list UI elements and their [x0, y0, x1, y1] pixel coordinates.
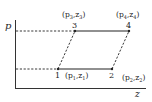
point-3-label: 3: [72, 21, 77, 30]
p-z-diagram: p z 3 4 1 2 (p3,z3) (p4,z4) (p1,z1) (p2,…: [0, 0, 152, 102]
point-2-coord-label: (p2,z2): [122, 73, 145, 83]
x-axis-label: z: [134, 89, 140, 99]
point-4-label: 4: [126, 21, 131, 30]
point-1-coord-label: (p1,z1): [65, 71, 88, 81]
point-1-label: 1: [55, 71, 60, 80]
point-2-label: 2: [109, 71, 114, 80]
point-3-marker: [74, 30, 76, 32]
y-axis-label: p: [5, 20, 12, 31]
dashed-segment-2-4: [112, 31, 129, 69]
point-2-marker: [111, 68, 113, 70]
point-4-marker: [128, 30, 130, 32]
dashed-segment-1-3: [58, 31, 75, 69]
point-3-coord-label: (p3,z3): [62, 10, 85, 20]
point-4-coord-label: (p4,z4): [116, 10, 139, 20]
point-1-marker: [57, 68, 59, 70]
